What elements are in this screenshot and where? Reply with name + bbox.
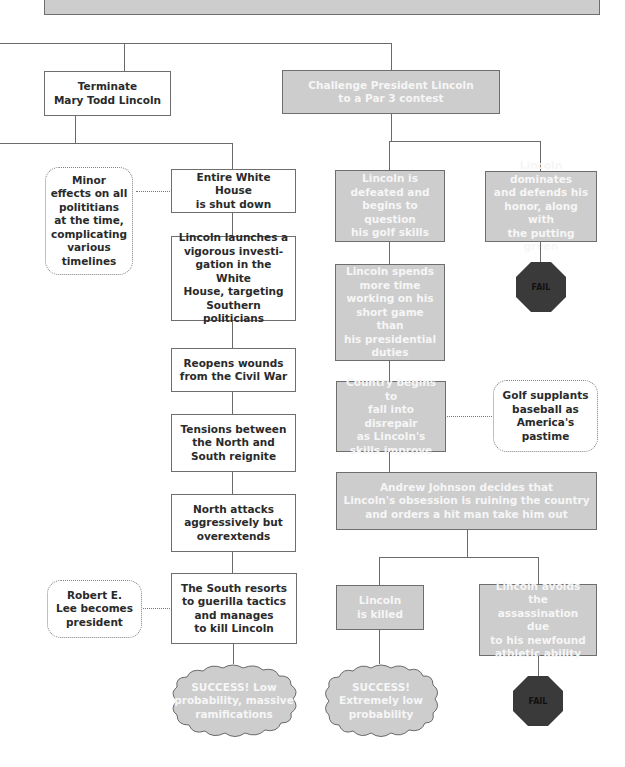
connector bbox=[538, 656, 539, 676]
outcome-text: SUCCESS! Extremely low probability bbox=[321, 663, 441, 739]
connector bbox=[389, 141, 541, 142]
fail-octagon-1: FAIL bbox=[516, 262, 566, 312]
node-spends-time: Lincoln spends more time working on his … bbox=[335, 264, 445, 361]
connector bbox=[391, 43, 392, 70]
connector bbox=[0, 43, 392, 44]
node-white-house-shut-down: Entire White House is shut down bbox=[171, 169, 296, 213]
connector bbox=[540, 242, 541, 262]
top-bar bbox=[44, 0, 600, 15]
node-north-attacks: North attacks aggressively but overexten… bbox=[171, 494, 296, 552]
fail-label: FAIL bbox=[513, 676, 563, 726]
connector bbox=[124, 43, 125, 71]
outcome-success-right: SUCCESS! Extremely low probability bbox=[321, 663, 441, 739]
node-tensions-reignite: Tensions between the North and South rei… bbox=[171, 414, 296, 472]
outcome-text: SUCCESS! Low probability, massive ramifi… bbox=[167, 663, 301, 739]
connector bbox=[232, 472, 233, 494]
connector bbox=[232, 321, 233, 348]
connector bbox=[391, 114, 392, 142]
connector bbox=[379, 557, 380, 585]
node-lincoln-dominates: Lincoln dominates and defends his honor,… bbox=[485, 171, 597, 242]
note-connector bbox=[143, 608, 170, 609]
node-south-guerilla: The South resorts to guerilla tactics an… bbox=[171, 573, 297, 644]
node-reopens-wounds: Reopens wounds from the Civil War bbox=[171, 348, 296, 392]
note-minor-effects: Minor effects on all polititians at the … bbox=[45, 167, 133, 275]
node-investigation: Lincoln launches a vigorous investi- gat… bbox=[171, 236, 296, 321]
connector bbox=[379, 557, 539, 558]
node-lincoln-killed: Lincoln is killed bbox=[336, 585, 424, 630]
node-lincoln-defeated: Lincoln is defeated and begins to questi… bbox=[335, 170, 445, 242]
connector bbox=[389, 141, 390, 170]
connector bbox=[0, 143, 233, 144]
connector bbox=[232, 143, 233, 169]
node-andrew-johnson: Andrew Johnson decides that Lincoln's ob… bbox=[336, 472, 597, 530]
fail-octagon-2: FAIL bbox=[513, 676, 563, 726]
node-country-disrepair: Country begins to fall into disrepair as… bbox=[336, 381, 446, 452]
node-terminate-mary-todd: Terminate Mary Todd Lincoln bbox=[44, 71, 171, 116]
connector bbox=[232, 552, 233, 573]
outcome-success-left: SUCCESS! Low probability, massive ramifi… bbox=[167, 663, 301, 739]
note-connector bbox=[447, 416, 492, 417]
note-golf-supplants: Golf supplants baseball as America's pas… bbox=[493, 380, 598, 452]
node-par3-challenge: Challenge President Lincoln to a Par 3 c… bbox=[282, 70, 500, 114]
connector bbox=[232, 392, 233, 414]
connector bbox=[389, 242, 390, 264]
note-robert-e-lee: Robert E. Lee becomes president bbox=[47, 580, 142, 638]
note-connector bbox=[136, 191, 170, 192]
connector bbox=[75, 116, 76, 143]
connector bbox=[389, 452, 390, 472]
fail-label: FAIL bbox=[516, 262, 566, 312]
node-lincoln-avoids: Lincoln avoids the assassination due to … bbox=[479, 584, 597, 656]
connector bbox=[233, 644, 234, 664]
connector bbox=[467, 530, 468, 558]
connector bbox=[379, 630, 380, 664]
